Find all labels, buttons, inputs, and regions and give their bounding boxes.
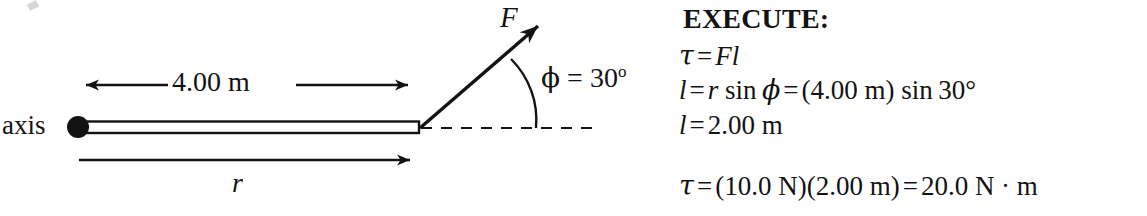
equation-lever-arm-value: l=2.00 m xyxy=(679,110,783,141)
force-vector-arrow xyxy=(420,26,538,128)
tau-symbol: τ xyxy=(679,40,694,71)
position-vector-label: r xyxy=(232,169,243,197)
equals-sign: = xyxy=(780,75,801,105)
tau-symbol: τ xyxy=(679,170,694,201)
lever-arm-symbol: l xyxy=(679,75,687,105)
dimension-label-4m: 4.00 m xyxy=(172,68,250,96)
lever-arm-symbol: l xyxy=(679,110,687,140)
equals-sign: = xyxy=(687,110,708,140)
equals-sign: = xyxy=(694,171,715,201)
phi-symbol: ϕ xyxy=(762,74,780,105)
torque-substitution: (10.0 N)(2.00 m) xyxy=(715,171,899,201)
force-vector-label: F xyxy=(500,3,518,32)
figure-page: axis 4.00 m r F ϕ = 30o EXECUTE: τ=Fl l=… xyxy=(0,0,1147,216)
equals-sign: = xyxy=(900,171,921,201)
equals-sign: = xyxy=(687,75,708,105)
substituted-values: (4.00 m) sin 30° xyxy=(802,75,976,105)
axis-label: axis xyxy=(2,112,46,139)
angle-arc xyxy=(511,59,536,128)
force-lever-product: Fl xyxy=(715,41,739,71)
solution-heading: EXECUTE: xyxy=(683,3,829,35)
solution-block: EXECUTE: τ=Fl l=r sin ϕ=(4.00 m) sin 30°… xyxy=(679,0,1147,216)
torque-value: 20.0 N · m xyxy=(921,171,1038,201)
lever-arm-result: 2.00 m xyxy=(708,110,783,140)
degree-superscript: o xyxy=(618,62,627,81)
equation-lever-arm-expression: l=r sin ϕ=(4.00 m) sin 30° xyxy=(679,74,976,106)
radius-symbol: r xyxy=(708,75,719,105)
pivot-axis-dot xyxy=(67,116,89,138)
rod-body xyxy=(78,122,419,134)
sine-operator: sin xyxy=(718,75,762,105)
phi-symbol: ϕ xyxy=(541,61,560,94)
angle-value: = 30 xyxy=(560,62,618,93)
equals-sign: = xyxy=(694,41,715,71)
angle-label: ϕ = 30o xyxy=(541,63,626,92)
equation-torque-result: τ=(10.0 N)(2.00 m)=20.0 N · m xyxy=(679,170,1038,202)
equation-torque-definition: τ=Fl xyxy=(679,40,739,72)
